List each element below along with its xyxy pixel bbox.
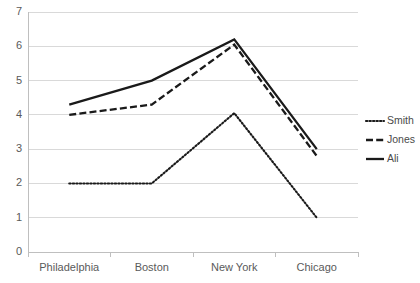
axes xyxy=(28,12,358,257)
legend-item-label: Smith xyxy=(387,114,414,126)
legend-item-label: Jones xyxy=(387,133,415,145)
x-tick-label: New York xyxy=(193,261,276,273)
line-chart: 01234567 PhiladelphiaBostonNew YorkChica… xyxy=(0,0,420,283)
x-tick-label: Philadelphia xyxy=(28,261,111,273)
y-tick-label: 4 xyxy=(2,108,22,120)
y-tick-label: 7 xyxy=(2,5,22,17)
y-tick-label: 1 xyxy=(2,211,22,223)
series-line-ali xyxy=(69,39,317,149)
y-tick-label: 6 xyxy=(2,39,22,51)
y-tick-label: 2 xyxy=(2,176,22,188)
y-tick-label: 5 xyxy=(2,74,22,86)
plot-canvas xyxy=(0,0,420,283)
legend-markers xyxy=(366,121,384,159)
legend-item-label: Ali xyxy=(387,152,399,164)
series-lines xyxy=(69,39,317,217)
series-line-smith xyxy=(69,113,317,218)
x-tick-label: Chicago xyxy=(276,261,359,273)
y-tick-label: 0 xyxy=(2,245,22,257)
x-tick-label: Boston xyxy=(111,261,194,273)
y-tick-label: 3 xyxy=(2,142,22,154)
gridlines xyxy=(28,12,358,252)
